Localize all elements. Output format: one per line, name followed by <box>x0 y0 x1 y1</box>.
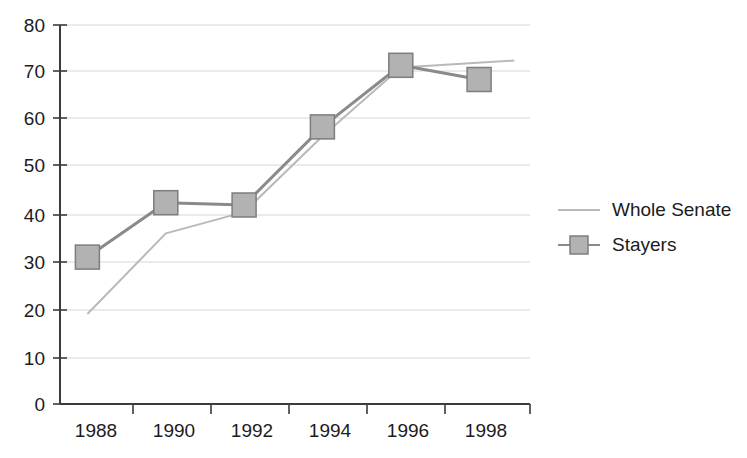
data-point-marker[interactable] <box>389 53 413 77</box>
x-tick-label-1994: 1994 <box>309 420 352 441</box>
y-tick-label-60: 60 <box>24 108 45 129</box>
series-stayers <box>75 53 491 269</box>
data-point-marker[interactable] <box>467 68 491 92</box>
legend-label-stayers: Stayers <box>612 234 676 255</box>
data-point-marker[interactable] <box>310 115 334 139</box>
x-tick-label-1992: 1992 <box>231 420 273 441</box>
x-tick-label-1990: 1990 <box>153 420 195 441</box>
legend-label-whole-senate: Whole Senate <box>612 199 731 220</box>
x-tick-label-1996: 1996 <box>387 420 429 441</box>
legend-item-stayers[interactable]: Stayers <box>558 234 676 255</box>
y-tick-label-80: 80 <box>24 15 45 36</box>
legend-swatch-square-icon <box>570 236 588 254</box>
y-tick-label-40: 40 <box>24 205 45 226</box>
y-tick-label-30: 30 <box>24 252 45 273</box>
x-tick-label-1988: 1988 <box>75 420 117 441</box>
chart-legend: Whole Senate Stayers <box>558 199 731 255</box>
y-tick-label-10: 10 <box>24 348 45 369</box>
data-point-marker[interactable] <box>232 193 256 217</box>
data-point-marker[interactable] <box>75 245 99 269</box>
data-point-marker[interactable] <box>154 191 178 215</box>
y-tick-label-70: 70 <box>24 61 45 82</box>
legend-item-whole-senate[interactable]: Whole Senate <box>558 199 731 220</box>
y-axis-labels: 80 70 60 50 40 30 20 10 0 <box>24 15 45 415</box>
x-tick-label-1998: 1998 <box>465 420 507 441</box>
axes <box>53 25 530 414</box>
y-tick-label-50: 50 <box>24 155 45 176</box>
series-line-stayers <box>87 65 479 257</box>
series-line-whole-senate <box>87 61 514 315</box>
line-chart: 80 70 60 50 40 30 20 10 0 1988 1990 1992… <box>0 0 747 458</box>
y-tick-label-20: 20 <box>24 300 45 321</box>
series-whole-senate <box>87 61 514 315</box>
x-axis-labels: 1988 1990 1992 1994 1996 1998 <box>75 420 507 441</box>
y-tick-label-0: 0 <box>34 394 45 415</box>
chart-container: 80 70 60 50 40 30 20 10 0 1988 1990 1992… <box>0 0 747 458</box>
